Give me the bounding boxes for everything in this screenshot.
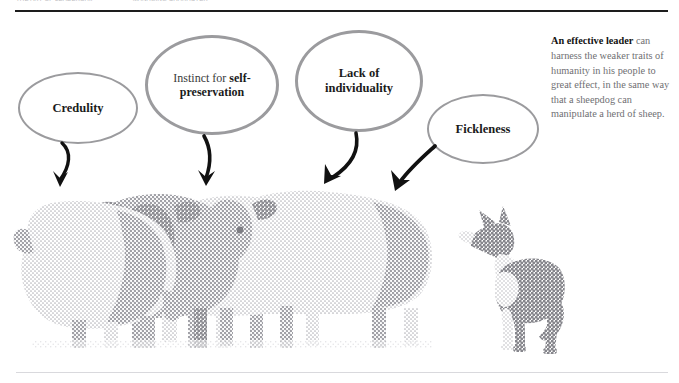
sidenote-body: can harness the weaker traits of humanit…	[551, 35, 669, 119]
bubble-self-preservation[interactable]: Instinct for self-preservation	[145, 35, 279, 135]
sidenote-paragraph: An effective leader can harness the weak…	[551, 34, 671, 122]
bubble-fickleness-label: Fickleness	[448, 122, 519, 137]
running-head-left: THE ART OF LEADERSHIP	[16, 0, 95, 2]
halftone-sheep-flock-illustration	[12, 168, 442, 348]
top-rule	[15, 10, 668, 12]
bubble-individuality[interactable]: Lack of individuality	[295, 30, 423, 132]
bubble-self-preservation-prefix: Instinct for	[173, 71, 229, 85]
diagram-page: THE ART OF LEADERSHIP MANAGING CHARACTER	[0, 0, 679, 383]
bubble-individuality-label: Lack of individuality	[298, 66, 420, 96]
bubble-credulity-label: Credulity	[44, 101, 111, 116]
halftone-sheepdog-illustration	[455, 204, 567, 356]
running-head-right: MANAGING CHARACTER	[133, 0, 208, 2]
bottom-rule	[16, 372, 668, 373]
running-head: THE ART OF LEADERSHIP MANAGING CHARACTER	[16, 0, 208, 2]
bubble-credulity[interactable]: Credulity	[18, 72, 138, 144]
bubble-fickleness[interactable]: Fickleness	[427, 94, 539, 164]
sidenote-lead-in: An effective leader	[551, 35, 633, 46]
bubble-self-preservation-label: Instinct for self-preservation	[148, 71, 276, 99]
